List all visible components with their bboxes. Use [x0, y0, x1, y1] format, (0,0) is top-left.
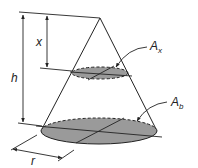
section-extension-line [40, 68, 72, 71]
base-extension-line [18, 123, 42, 126]
ax-leader [116, 47, 147, 67]
radius-ext-left [11, 135, 37, 150]
label-ax: Ax [149, 39, 163, 55]
radius-ext-right [58, 150, 74, 161]
top-extension-line [19, 12, 100, 18]
label-ab: Ab [170, 95, 184, 111]
radius-arrow [13, 149, 62, 158]
label-h: h [11, 71, 18, 85]
label-x: x [35, 35, 43, 49]
ab-leader [137, 102, 167, 121]
label-r: r [31, 154, 36, 168]
cone-diagram: h x r Ax Ab [0, 0, 198, 168]
